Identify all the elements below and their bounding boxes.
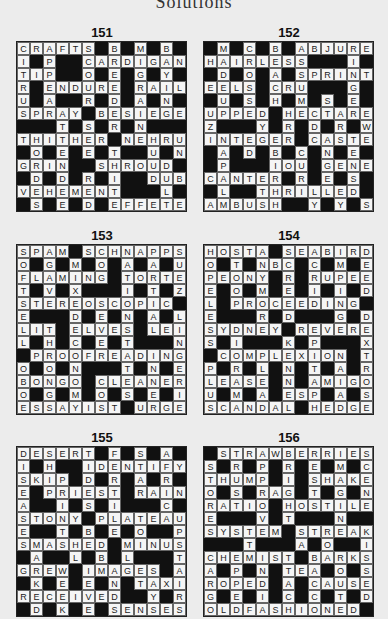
letter-cell: E (334, 525, 347, 538)
letter-cell: E (204, 81, 217, 94)
letter-cell: R (56, 297, 69, 310)
black-square (43, 120, 56, 133)
black-square (134, 258, 147, 271)
letter-cell: R (43, 107, 56, 120)
letter-cell: E (308, 460, 321, 473)
letter-cell: K (360, 525, 373, 538)
letter-cell: R (147, 401, 160, 414)
black-square (360, 185, 373, 198)
black-square (134, 362, 147, 375)
letter-cell: H (217, 473, 230, 486)
letter-cell: U (243, 198, 256, 211)
letter-cell: M (230, 388, 243, 401)
letter-cell: E (56, 590, 69, 603)
letter-cell: D (334, 401, 347, 414)
black-square (56, 323, 69, 336)
black-square (243, 120, 256, 133)
letter-cell: A (204, 198, 217, 211)
letter-cell: R (204, 577, 217, 590)
letter-cell: S (108, 603, 121, 616)
black-square (121, 525, 134, 538)
letter-cell: Y (269, 323, 282, 336)
letter-cell: R (347, 245, 360, 258)
letter-cell: E (147, 512, 160, 525)
letter-cell: S (134, 447, 147, 460)
letter-cell: N (147, 362, 160, 375)
letter-cell: N (121, 133, 134, 146)
letter-cell: I (108, 499, 121, 512)
letter-cell: E (30, 185, 43, 198)
letter-cell: H (308, 401, 321, 414)
letter-cell: E (56, 447, 69, 460)
letter-cell: A (121, 512, 134, 525)
black-square (256, 42, 269, 55)
letter-cell: E (173, 198, 186, 211)
letter-cell: S (147, 564, 160, 577)
letter-cell: G (347, 375, 360, 388)
letter-cell: L (173, 81, 186, 94)
black-square (230, 120, 243, 133)
letter-cell: F (108, 447, 121, 460)
letter-cell: E (69, 323, 82, 336)
letter-cell: B (95, 107, 108, 120)
letter-cell: D (308, 297, 321, 310)
black-square (173, 473, 186, 486)
letter-cell: B (269, 42, 282, 55)
black-square (269, 538, 282, 551)
letter-cell: T (30, 512, 43, 525)
black-square (230, 512, 243, 525)
letter-cell: O (321, 538, 334, 551)
letter-cell: B (160, 42, 173, 55)
letter-cell: I (334, 447, 347, 460)
letter-cell: A (173, 564, 186, 577)
black-square (173, 499, 186, 512)
letter-cell: E (30, 590, 43, 603)
black-square (17, 120, 30, 133)
letter-cell: L (269, 349, 282, 362)
letter-cell: E (147, 388, 160, 401)
letter-cell: I (160, 486, 173, 499)
black-square (30, 388, 43, 401)
letter-cell: E (308, 323, 321, 336)
letter-cell: S (334, 133, 347, 146)
black-square (108, 551, 121, 564)
black-square (295, 198, 308, 211)
letter-cell: N (173, 486, 186, 499)
letter-cell: N (147, 375, 160, 388)
black-square (160, 258, 173, 271)
letter-cell: U (173, 133, 186, 146)
black-square (217, 284, 230, 297)
black-square (347, 310, 360, 323)
letter-cell: E (108, 107, 121, 120)
letter-cell: I (69, 590, 82, 603)
letter-cell: O (308, 603, 321, 616)
black-square (134, 284, 147, 297)
letter-cell: T (204, 473, 217, 486)
black-square (160, 590, 173, 603)
letter-cell: R (134, 486, 147, 499)
crossword-grid: HOSTASEABIRDOTNBCCMEPEONYRRUPEEEOMEIIDLP… (203, 244, 374, 415)
letter-cell: O (43, 512, 56, 525)
letter-cell: S (243, 375, 256, 388)
black-square (121, 473, 134, 486)
letter-cell: O (230, 349, 243, 362)
letter-cell: I (69, 486, 82, 499)
letter-cell: T (108, 486, 121, 499)
letter-cell: S (30, 401, 43, 414)
black-square (334, 94, 347, 107)
letter-cell: I (360, 538, 373, 551)
black-square (269, 271, 282, 284)
letter-cell: S (204, 401, 217, 414)
letter-cell: O (321, 349, 334, 362)
letter-cell: K (282, 336, 295, 349)
black-square (321, 564, 334, 577)
puzzle-152: 152 MCBABJUREHAIRLESSIDOASPRINTEELSCRUGU… (203, 25, 375, 212)
black-square (347, 258, 360, 271)
letter-cell: U (147, 159, 160, 172)
letter-cell: P (43, 55, 56, 68)
black-square (217, 362, 230, 375)
letter-cell: I (173, 323, 186, 336)
letter-cell: O (230, 284, 243, 297)
letter-cell: I (321, 297, 334, 310)
black-square (160, 284, 173, 297)
